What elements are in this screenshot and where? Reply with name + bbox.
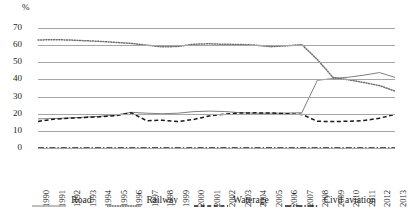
legend-swatch-icon (107, 196, 141, 204)
legend-swatch-icon (194, 196, 228, 204)
gridline (38, 45, 395, 46)
y-axis-tick-label: 60 (0, 40, 22, 49)
x-axis-labels: 1990199119921993199419951996199719981999… (38, 150, 395, 192)
gridline (38, 97, 395, 98)
legend-swatch-icon (285, 196, 319, 204)
y-axis-tick-label: 70 (0, 23, 22, 32)
gridline (38, 79, 395, 80)
legend-label: Waterage (233, 195, 269, 205)
legend-swatch-icon (32, 196, 66, 204)
y-axis-tick-label: 0 (0, 143, 22, 152)
gridline (38, 131, 395, 132)
y-axis-tick-label: 20 (0, 109, 22, 118)
line-chart: % 010203040506070 1990199119921993199419… (0, 0, 408, 220)
chart-legend: RoadRailwayWaterageCivil aviation (0, 195, 408, 205)
gridline (38, 62, 395, 63)
legend-label: Civil aviation (324, 195, 376, 205)
series-line-railway (38, 40, 395, 91)
legend-item-road[interactable]: Road (32, 195, 91, 205)
legend-label: Railway (146, 195, 178, 205)
y-axis-tick-label: 40 (0, 74, 22, 83)
legend-item-railway[interactable]: Railway (107, 195, 178, 205)
y-axis-tick-label: 10 (0, 126, 22, 135)
legend-label: Road (71, 195, 91, 205)
plot-area: 010203040506070 (38, 28, 395, 148)
y-axis-unit-label: % (22, 2, 30, 12)
legend-item-civil-aviation[interactable]: Civil aviation (285, 195, 376, 205)
gridline (38, 28, 395, 29)
y-axis-tick-label: 50 (0, 57, 22, 66)
gridline (38, 148, 395, 149)
gridline (38, 114, 395, 115)
y-axis-tick-label: 30 (0, 92, 22, 101)
legend-item-waterage[interactable]: Waterage (194, 195, 269, 205)
